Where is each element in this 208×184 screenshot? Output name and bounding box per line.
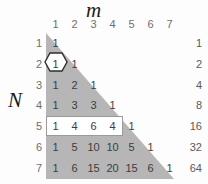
row-label-1: 1	[24, 33, 42, 53]
cell-n3-m3: 1	[84, 75, 103, 95]
cell-n5-m1: 1	[46, 116, 65, 136]
row-sum-1: 1	[178, 33, 202, 53]
y-axis-title: N	[8, 88, 22, 113]
cell-n5-m5: 1	[122, 116, 141, 136]
cell-n7-m1: 1	[46, 158, 65, 178]
column-header-row: 1234567	[46, 18, 179, 32]
cell-n6-m4: 10	[103, 137, 122, 157]
cell-n7-m7: 1	[160, 158, 179, 178]
row-sum-4: 8	[178, 95, 202, 115]
cell-n6-m6: 1	[141, 137, 160, 157]
cell-n5-m3: 6	[84, 116, 103, 136]
cell-n7-m3: 15	[84, 158, 103, 178]
cell-n2-m2: 1	[65, 54, 84, 74]
cell-n7-m2: 6	[65, 158, 84, 178]
pascals-triangle-figure: m N 1234567 1234567 11112113311464115101…	[0, 0, 208, 184]
column-header-4: 4	[103, 18, 122, 30]
cell-n2-m1: 1	[46, 54, 65, 74]
row-sum-7: 64	[178, 158, 202, 178]
row-sum-2: 2	[178, 54, 202, 74]
column-header-1: 1	[46, 18, 65, 30]
row-label-5: 5	[24, 116, 42, 136]
column-header-2: 2	[65, 18, 84, 30]
cell-n4-m1: 1	[46, 95, 65, 115]
cell-n3-m2: 2	[65, 75, 84, 95]
cell-n5-m2: 4	[65, 116, 84, 136]
cell-n5-m4: 4	[103, 116, 122, 136]
row-label-3: 3	[24, 75, 42, 95]
column-header-5: 5	[122, 18, 141, 30]
cell-n3-m1: 1	[46, 75, 65, 95]
row-sum-3: 4	[178, 75, 202, 95]
column-header-7: 7	[160, 18, 179, 30]
column-header-3: 3	[84, 18, 103, 30]
cell-n7-m6: 6	[141, 158, 160, 178]
row-label-4: 4	[24, 95, 42, 115]
cell-n7-m4: 20	[103, 158, 122, 178]
cell-n6-m2: 5	[65, 137, 84, 157]
cell-n4-m4: 1	[103, 95, 122, 115]
cell-n4-m2: 3	[65, 95, 84, 115]
cell-n6-m1: 1	[46, 137, 65, 157]
row-label-6: 6	[24, 137, 42, 157]
row-sum-5: 16	[178, 116, 202, 136]
cell-n6-m5: 5	[122, 137, 141, 157]
cell-n4-m3: 3	[84, 95, 103, 115]
row-sum-6: 32	[178, 137, 202, 157]
row-label-2: 2	[24, 54, 42, 74]
cell-n7-m5: 15	[122, 158, 141, 178]
row-label-7: 7	[24, 158, 42, 178]
column-header-6: 6	[141, 18, 160, 30]
cell-n6-m3: 10	[84, 137, 103, 157]
row-label-column: 1234567	[24, 33, 44, 179]
cell-n1-m1: 1	[46, 33, 65, 53]
triangle-cells: 111121133114641151010511615201561	[46, 33, 179, 179]
row-sums-column: 1248163264	[178, 33, 204, 179]
